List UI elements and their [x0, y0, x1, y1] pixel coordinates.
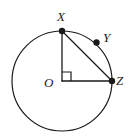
point-dot-y: [93, 39, 99, 45]
label-point-z: Z: [116, 74, 123, 87]
geometry-figure: X Y Z O: [0, 0, 132, 140]
point-dot-x: [59, 28, 65, 34]
label-point-x: X: [57, 10, 65, 23]
label-point-o: O: [44, 76, 53, 89]
geometry-canvas: [0, 0, 132, 140]
label-point-y: Y: [103, 31, 110, 44]
point-dot-z: [109, 78, 115, 84]
right-angle-mark: [62, 72, 71, 81]
